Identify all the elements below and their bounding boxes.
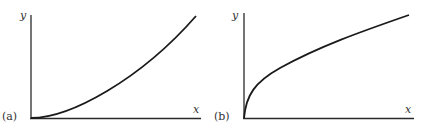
panel-b: y x (b) — [214, 9, 414, 123]
panel-a-curve — [31, 16, 196, 118]
panel-a-label: (a) — [2, 110, 17, 123]
panel-b-label: (b) — [214, 110, 230, 123]
panel-b-x-label: x — [405, 103, 412, 116]
panel-b-y-label: y — [231, 9, 239, 22]
panel-b-curve — [244, 15, 409, 118]
figure-canvas: y x (a) y x (b) — [0, 0, 423, 129]
panel-a-x-label: x — [193, 103, 200, 116]
panel-a-y-label: y — [19, 9, 27, 22]
panel-a: y x (a) — [2, 9, 201, 123]
